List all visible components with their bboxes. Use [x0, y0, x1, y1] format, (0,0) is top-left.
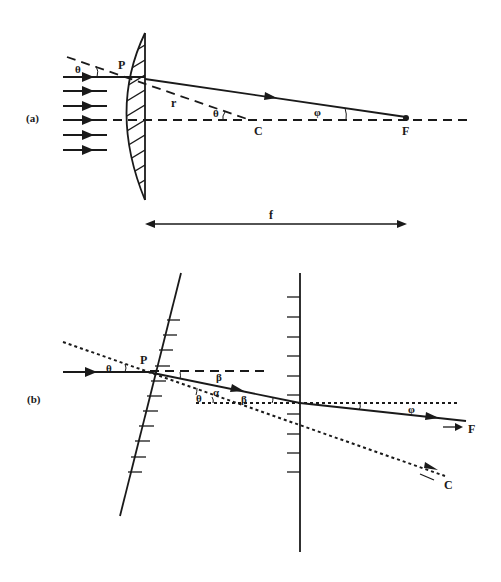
angle-theta-center: θ	[213, 107, 219, 119]
panel-b: (b)	[27, 273, 475, 552]
point-P-label: P	[118, 58, 125, 72]
normal-line	[67, 57, 250, 120]
exiting-ray	[300, 403, 466, 421]
panel-a: (a)	[26, 33, 470, 228]
flat-surface-hatching	[287, 297, 300, 472]
angle-beta-2: β	[241, 393, 247, 405]
focal-length-label: f	[269, 208, 274, 222]
angle-beta-1: β	[216, 371, 222, 383]
panel-a-label: (a)	[26, 112, 39, 125]
angle-theta-2: θ	[196, 392, 202, 404]
angle-theta-incidence: θ	[75, 63, 81, 75]
panel-b-label: (b)	[27, 393, 41, 406]
slanted-surface-hatching	[128, 320, 180, 472]
radius-label: r	[171, 96, 177, 110]
angle-phi: φ	[408, 403, 415, 415]
angle-phi-focus: φ	[314, 106, 321, 118]
point-F-label: F	[402, 124, 409, 138]
point-C-label: C	[254, 124, 263, 138]
direction-C-label: C	[444, 478, 453, 492]
lens-refraction-diagram: (a)	[0, 0, 501, 582]
angle-theta-1: θ	[106, 362, 112, 374]
normal-to-C	[63, 342, 445, 476]
slanted-lens-surface	[120, 273, 181, 516]
point-P-label-b: P	[140, 353, 147, 367]
focal-point	[403, 115, 409, 121]
angle-alpha: α	[213, 386, 220, 398]
direction-F-label: F	[468, 422, 475, 436]
